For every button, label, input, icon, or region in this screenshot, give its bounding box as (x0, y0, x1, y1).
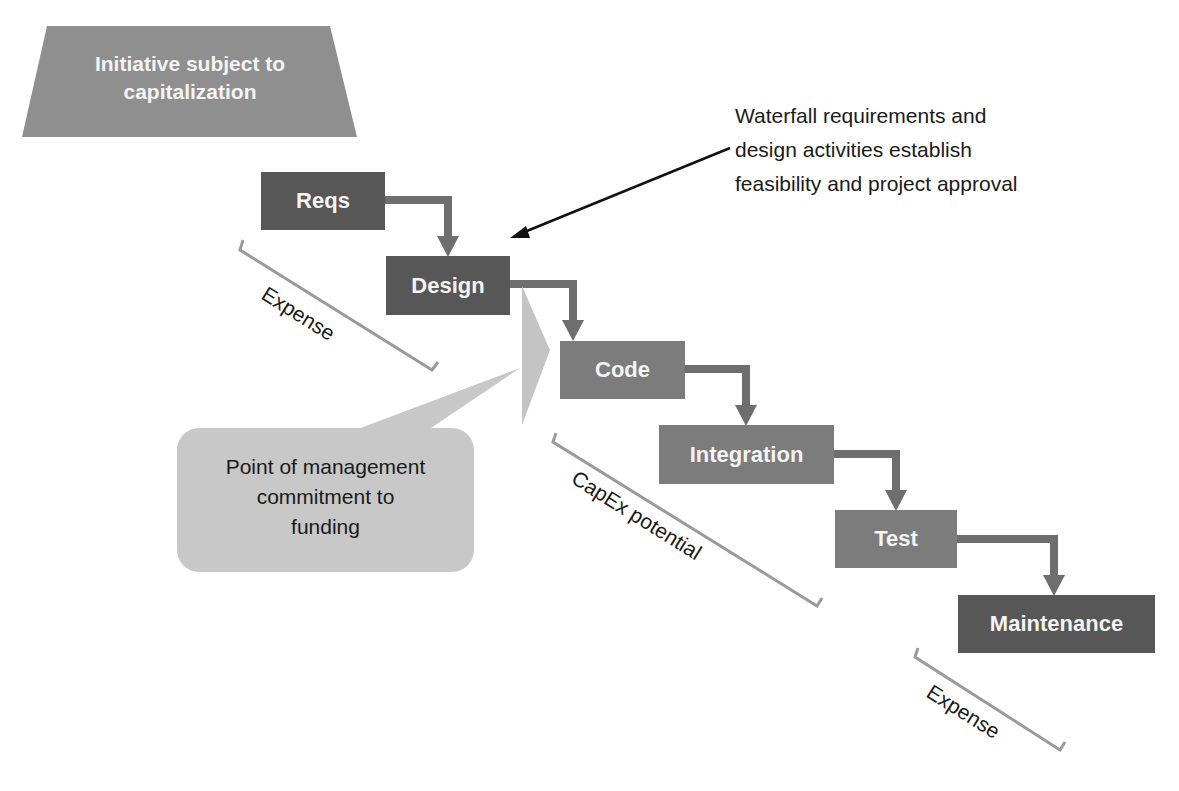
stage-design: Design (386, 256, 510, 315)
waterfall-note-line: Waterfall requirements and (735, 99, 1018, 133)
stage-test: Test (835, 510, 957, 568)
callout-pointer (350, 368, 520, 432)
stage-integration: Integration (659, 425, 834, 484)
callout-text: Point of management commitment to fundin… (177, 452, 474, 542)
trapezoid-label: Initiative subject to capitalization (40, 50, 340, 106)
commitment-marker (522, 286, 550, 425)
annotation-arrowhead (510, 226, 530, 238)
callout-line: Point of management (177, 452, 474, 482)
waterfall-note-line: feasibility and project approval (735, 167, 1018, 201)
waterfall-note-line: design activities establish (735, 133, 1018, 167)
callout-line: commitment to (177, 482, 474, 512)
stage-maintenance: Maintenance (958, 595, 1155, 653)
stage-code: Code (560, 341, 685, 399)
callout-line: funding (177, 512, 474, 542)
stage-reqs: Reqs (261, 172, 385, 230)
annotation-arrow (522, 148, 730, 233)
waterfall-note: Waterfall requirements and design activi… (735, 99, 1018, 201)
